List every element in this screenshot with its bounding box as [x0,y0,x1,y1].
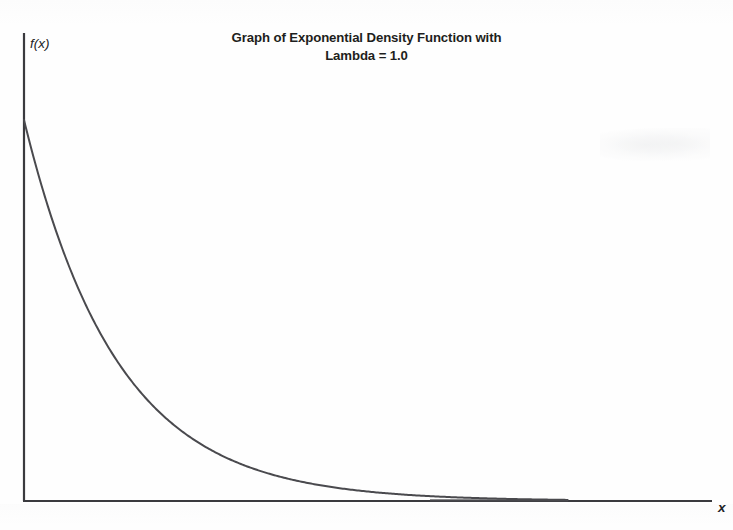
x-axis-label: x [718,500,726,515]
chart-figure: Graph of Exponential Density Function wi… [0,0,733,530]
exponential-decay-curve [24,120,568,500]
plot-area [0,0,733,530]
y-axis-label: f(x) [30,36,50,51]
